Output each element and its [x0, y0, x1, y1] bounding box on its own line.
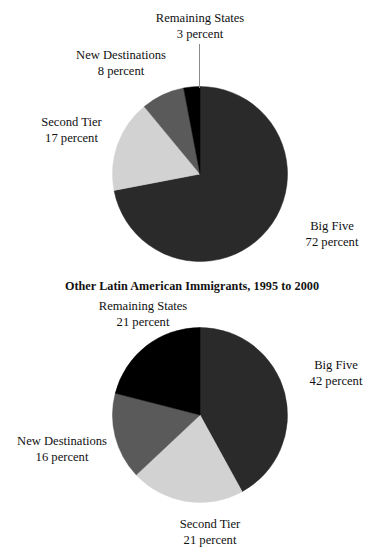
chart-1-pie-svg [112, 86, 288, 262]
chart-1-label-new-destinations-value: 8 percent [46, 64, 196, 80]
chart-2-label-new-destinations-name: New Destinations [2, 434, 122, 450]
chart-2-label-big-five: Big Five 42 percent [290, 358, 382, 389]
chart-1-label-remaining-states-name: Remaining States [125, 11, 275, 27]
chart-1-label-remaining-states: Remaining States 3 percent [125, 11, 275, 42]
chart-1-label-big-five-value: 72 percent [282, 235, 382, 251]
chart-1-label-new-destinations: New Destinations 8 percent [46, 48, 196, 79]
chart-2-label-new-destinations-value: 16 percent [2, 450, 122, 466]
chart-1-label-big-five: Big Five 72 percent [282, 219, 382, 250]
chart-2-label-big-five-value: 42 percent [290, 374, 382, 390]
chart-1-label-second-tier-name: Second Tier [14, 115, 129, 131]
chart-2-label-second-tier-name: Second Tier [145, 517, 275, 533]
chart-2-label-remaining-states: Remaining States 21 percent [68, 299, 218, 330]
chart-1-label-new-destinations-name: New Destinations [46, 48, 196, 64]
chart-1-label-big-five-name: Big Five [282, 219, 382, 235]
chart-2-label-remaining-states-name: Remaining States [68, 299, 218, 315]
chart-2-pie [112, 327, 288, 503]
chart-2-label-second-tier-value: 21 percent [145, 533, 275, 549]
chart-2-pie-svg [112, 327, 288, 503]
pie-chart-figure: Mexican Immigrants, 1995 to 2000 Remaini… [0, 0, 384, 556]
chart-2-label-big-five-name: Big Five [290, 358, 382, 374]
chart-2-title: Other Latin American Immigrants, 1995 to… [0, 279, 384, 294]
chart-2-label-new-destinations: New Destinations 16 percent [2, 434, 122, 465]
chart-1-pie [112, 86, 288, 262]
chart-2-label-remaining-states-value: 21 percent [68, 315, 218, 331]
chart-1-label-second-tier-value: 17 percent [14, 131, 129, 147]
chart-1-label-second-tier: Second Tier 17 percent [14, 115, 129, 146]
chart-1-label-remaining-states-value: 3 percent [125, 27, 275, 43]
chart-1-remaining-states-leader-line [199, 44, 200, 88]
chart-2-label-second-tier: Second Tier 21 percent [145, 517, 275, 548]
